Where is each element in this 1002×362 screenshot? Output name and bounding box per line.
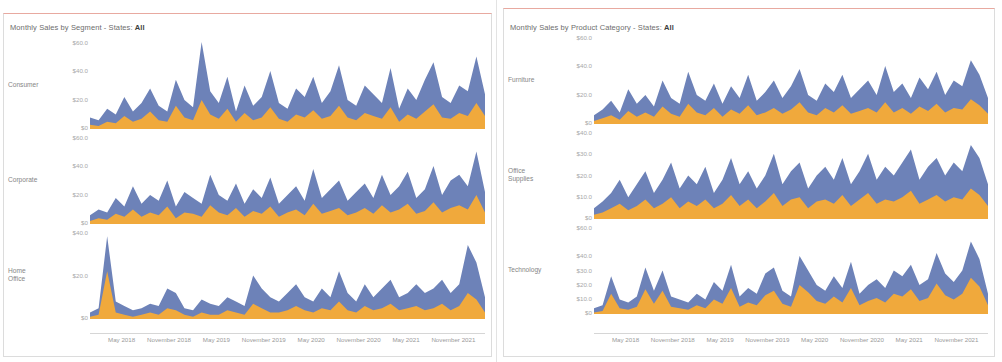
row-label-furniture: Furniture <box>508 76 554 84</box>
x-axis-category: May 2018November 2018May 2019November 20… <box>594 333 988 346</box>
area-chart <box>90 137 485 224</box>
page-title-category: Monthly Sales by Product Category - Stat… <box>510 23 674 32</box>
y-tick-label: $40.0 <box>73 162 88 169</box>
x-tick-label: November 2021 <box>934 336 978 343</box>
plot-technology[interactable] <box>594 227 988 314</box>
page-title-segment: Monthly Sales by Segment - States: All <box>10 23 145 32</box>
y-tick-label: $20.0 <box>577 90 592 97</box>
y-tick-label: $30.0 <box>577 266 592 273</box>
x-tick-label: May 2021 <box>392 336 419 343</box>
y-tick-label: $60.0 <box>73 134 88 141</box>
plot-consumer[interactable] <box>90 42 485 129</box>
row-label-home-office: Home Office <box>8 267 56 283</box>
y-axis-corporate: $60.0$40.0$20.0$0 <box>56 133 90 226</box>
chart-row-consumer[interactable]: Consumer $60.0$40.0$20.0$0 <box>4 38 491 131</box>
worksheet-category[interactable]: Monthly Sales by Product Category - Stat… <box>503 8 995 357</box>
plot-corporate[interactable] <box>90 137 485 224</box>
y-axis-home-office: $40.0$20.0$0 <box>56 228 90 321</box>
y-tick-label: $0 <box>81 219 88 226</box>
area-chart <box>594 227 988 314</box>
y-tick-label: $0 <box>81 314 88 321</box>
y-axis-technology: $60.0$40.0$30.0$20.0$10.0$0 <box>560 223 594 316</box>
y-tick-label: $60.0 <box>73 39 88 46</box>
plot-home-office[interactable] <box>90 232 485 319</box>
y-tick-label: $0 <box>585 214 592 221</box>
x-tick-label: November 2020 <box>840 336 884 343</box>
y-axis-office-supplies: $40.0$30.0$20.0$10.0$0 <box>560 128 594 221</box>
y-tick-label: $20.0 <box>73 190 88 197</box>
x-tick-label: November 2018 <box>147 336 191 343</box>
chart-row-home-office[interactable]: Home Office $40.0$20.0$0 <box>4 228 491 321</box>
plot-office-supplies[interactable] <box>594 132 988 219</box>
y-tick-label: $40.0 <box>73 229 88 236</box>
y-tick-label: $0 <box>585 119 592 126</box>
area-chart <box>594 37 988 124</box>
y-axis-furniture: $60.0$40.0$20.0$0 <box>560 33 594 126</box>
x-tick-label: May 2019 <box>706 336 733 343</box>
x-tick-label: November 2020 <box>337 336 381 343</box>
dashboard-panel-category: Monthly Sales by Product Category - Stat… <box>497 0 1002 362</box>
sheet-title-text: Monthly Sales by Product Category - Stat… <box>510 23 662 32</box>
row-label-consumer: Consumer <box>8 81 56 89</box>
worksheet-segment[interactable]: Monthly Sales by Segment - States: All C… <box>3 13 492 357</box>
y-tick-label: $40.0 <box>577 62 592 69</box>
x-tick-label: May 2020 <box>298 336 325 343</box>
dashboard-panel-segment: Monthly Sales by Segment - States: All C… <box>0 0 497 362</box>
y-tick-label: $20.0 <box>577 171 592 178</box>
y-tick-label: $20.0 <box>73 95 88 102</box>
y-tick-label: $20.0 <box>577 280 592 287</box>
x-tick-label: November 2019 <box>242 336 286 343</box>
y-tick-label: $40.0 <box>73 67 88 74</box>
series-area-upper <box>90 236 485 319</box>
y-tick-label: $40.0 <box>577 252 592 259</box>
y-axis-consumer: $60.0$40.0$20.0$0 <box>56 38 90 131</box>
y-tick-label: $10.0 <box>577 294 592 301</box>
y-tick-label: $0 <box>81 124 88 131</box>
small-multiples-segment: Consumer $60.0$40.0$20.0$0 Corporate $60… <box>4 38 491 350</box>
area-chart <box>90 232 485 319</box>
area-chart <box>90 42 485 129</box>
state-filter-value: All <box>135 23 145 32</box>
y-tick-label: $30.0 <box>577 150 592 157</box>
area-chart <box>594 132 988 219</box>
x-tick-label: November 2021 <box>431 336 475 343</box>
y-tick-label: $10.0 <box>577 192 592 199</box>
x-axis-segment: May 2018November 2018May 2019November 20… <box>90 333 485 346</box>
plot-furniture[interactable] <box>594 37 988 124</box>
chart-row-technology[interactable]: Technology $60.0$40.0$30.0$20.0$10.0$0 <box>504 223 994 316</box>
x-tick-label: May 2020 <box>801 336 828 343</box>
y-tick-label: $60.0 <box>577 34 592 41</box>
small-multiples-category: Furniture $60.0$40.0$20.0$0 Office Suppl… <box>504 33 994 345</box>
state-filter-value: All <box>664 23 674 32</box>
row-label-corporate: Corporate <box>8 176 56 184</box>
y-tick-label: $20.0 <box>73 271 88 278</box>
x-tick-label: May 2019 <box>203 336 230 343</box>
row-label-technology: Technology <box>508 266 554 274</box>
y-tick-label: $0 <box>585 309 592 316</box>
sheet-title-text: Monthly Sales by Segment - States: <box>10 23 133 32</box>
x-tick-label: November 2019 <box>745 336 789 343</box>
chart-row-corporate[interactable]: Corporate $60.0$40.0$20.0$0 <box>4 133 491 226</box>
y-tick-label: $60.0 <box>577 224 592 231</box>
chart-row-furniture[interactable]: Furniture $60.0$40.0$20.0$0 <box>504 33 994 126</box>
x-tick-label: May 2018 <box>612 336 639 343</box>
x-tick-label: May 2018 <box>108 336 135 343</box>
chart-row-office-supplies[interactable]: Office Supplies $40.0$30.0$20.0$10.0$0 <box>504 128 994 221</box>
x-tick-label: November 2018 <box>651 336 695 343</box>
y-tick-label: $40.0 <box>577 129 592 136</box>
x-tick-label: May 2021 <box>896 336 923 343</box>
row-label-office-supplies: Office Supplies <box>508 167 554 183</box>
